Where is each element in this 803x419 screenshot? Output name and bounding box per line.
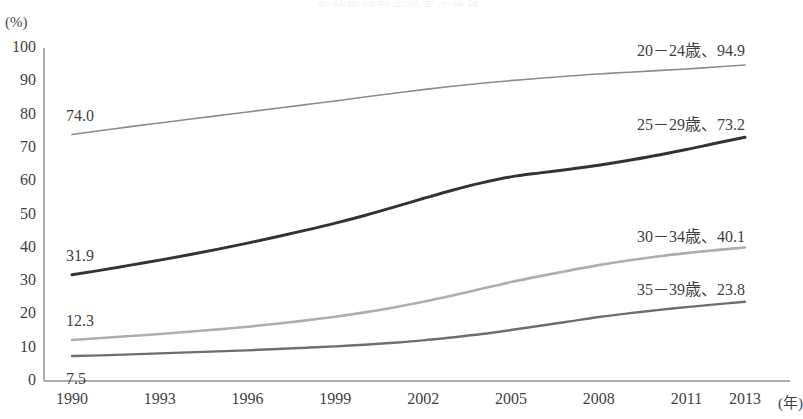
x-axis-unit-label: (年) [778,391,803,412]
y-axis-tick-label: 40 [0,238,36,256]
series-end-label: 25－29歳、73.2 [637,111,745,135]
y-axis-tick-label: 50 [0,205,36,223]
x-axis-tick-label: 1999 [319,390,351,408]
y-axis-tick-label: 60 [0,171,36,189]
series-line [72,137,745,275]
x-axis-tick-label: 2008 [583,390,615,408]
series-end-label: 35－39歳、23.8 [637,276,745,300]
series-start-value-label: 7.5 [66,370,86,388]
x-axis-tick-label: 2011 [671,390,702,408]
series-start-value-label: 12.3 [66,312,94,330]
y-axis-tick-label: 70 [0,138,36,156]
series-end-label: 20－24歳、94.9 [637,37,745,61]
y-axis-tick-label: 30 [0,271,36,289]
series-start-value-label: 74.0 [66,107,94,125]
axes [44,48,790,381]
y-axis-tick-label: 20 [0,304,36,322]
x-axis-tick-label: 2005 [495,390,527,408]
data-series-group [72,65,745,356]
y-axis-tick-label: 10 [0,338,36,356]
x-axis-tick-label: 1996 [232,390,264,408]
y-axis-tick-label: 80 [0,105,36,123]
x-axis-tick-label: 1993 [144,390,176,408]
x-axis-tick-label: 2002 [407,390,439,408]
x-axis-tick-label: 1990 [56,390,88,408]
y-axis-tick-label: 100 [0,38,36,56]
y-axis-tick-label: 0 [0,371,36,389]
y-axis-tick-label: 90 [0,71,36,89]
series-line [72,302,745,356]
x-axis-tick-label: 2013 [729,390,761,408]
series-end-label: 30－34歳、40.1 [637,223,745,247]
series-start-value-label: 31.9 [66,247,94,265]
